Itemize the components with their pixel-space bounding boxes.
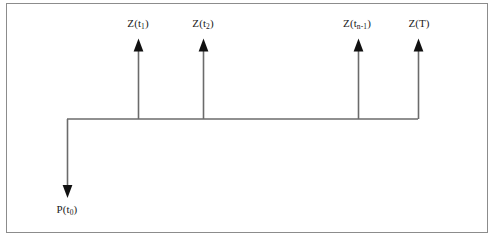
label-z-T-paren-close: ) — [426, 17, 430, 29]
label-p-t0-paren-close: ) — [74, 203, 78, 215]
label-z-T: Z(T) — [408, 17, 429, 29]
label-z-t1-subscript: 1 — [141, 22, 145, 31]
label-z-T-base: Z — [408, 17, 415, 29]
label-z-t1-base: Z — [127, 17, 134, 29]
label-z-t2: Z(t2) — [192, 17, 213, 29]
figure-root: Z(t1) Z(t2) Z(tn-1) Z(T) P(t0) — [0, 0, 495, 244]
label-z-tn-1: Z(tn-1) — [343, 17, 371, 29]
label-p-t0-subscript: 0 — [70, 208, 74, 217]
label-z-t2-paren-close: ) — [210, 17, 214, 29]
figure-border — [7, 4, 488, 233]
label-z-tn-1-subscript: n-1 — [357, 22, 367, 31]
label-z-t1: Z(t1) — [127, 17, 148, 29]
label-z-tn-1-paren-close: ) — [367, 17, 371, 29]
label-z-t1-paren-close: ) — [145, 17, 149, 29]
label-z-tn-1-base: Z — [343, 17, 350, 29]
label-z-t2-base: Z — [192, 17, 199, 29]
label-p-t0: P(t0) — [57, 203, 78, 215]
label-z-t2-subscript: 2 — [206, 22, 210, 31]
